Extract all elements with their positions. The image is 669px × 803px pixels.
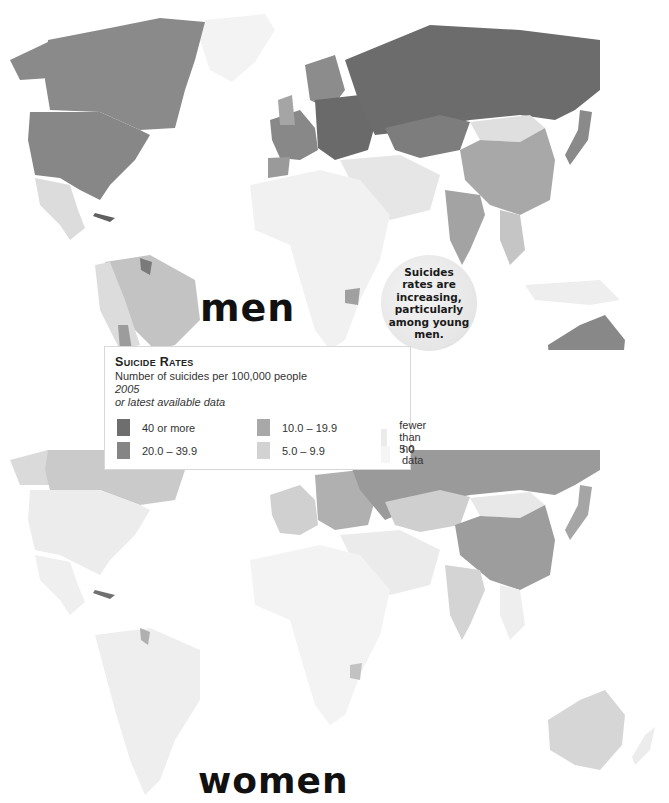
legend-swatch bbox=[257, 419, 270, 436]
region-south-america bbox=[95, 628, 200, 795]
legend-note: or latest available data bbox=[115, 396, 400, 409]
legend-label: 20.0 – 39.9 bbox=[142, 445, 197, 457]
region-greenland bbox=[200, 14, 275, 82]
legend-label: 40 or more bbox=[142, 422, 195, 434]
region-cuba bbox=[93, 590, 115, 599]
legend-swatch bbox=[117, 419, 130, 436]
callout-text: Suicides rates are increasing, particula… bbox=[388, 266, 470, 341]
region-uk bbox=[278, 95, 295, 125]
legend-label: 10.0 – 19.9 bbox=[282, 422, 337, 434]
women-map-label: women bbox=[198, 760, 349, 801]
legend-swatch bbox=[257, 442, 270, 459]
region-cuba bbox=[93, 213, 115, 222]
legend-swatch bbox=[117, 442, 130, 459]
legend: Suicide Rates Number of suicides per 100… bbox=[104, 346, 411, 470]
region-zimbabwe bbox=[350, 663, 362, 680]
region-africa bbox=[250, 545, 390, 725]
region-australia bbox=[548, 315, 625, 350]
legend-item-40-plus: 40 or more bbox=[117, 419, 195, 436]
legend-item-no-data: no data bbox=[381, 442, 427, 466]
region-zimbabwe bbox=[345, 288, 360, 305]
region-japan bbox=[565, 485, 592, 540]
legend-label: no data bbox=[402, 442, 427, 466]
women-map bbox=[0, 450, 669, 803]
men-map bbox=[0, 0, 669, 350]
region-spain bbox=[268, 157, 290, 178]
region-se-asia bbox=[500, 585, 525, 640]
region-western-europe bbox=[270, 485, 318, 535]
region-australia bbox=[548, 690, 625, 770]
legend-swatch bbox=[381, 446, 390, 463]
legend-item-10-19: 10.0 – 19.9 bbox=[257, 419, 337, 436]
region-mexico bbox=[35, 555, 85, 615]
region-india bbox=[445, 190, 485, 265]
region-se-asia bbox=[500, 210, 525, 265]
callout-bubble: Suicides rates are increasing, particula… bbox=[381, 255, 477, 351]
region-new-zealand bbox=[632, 727, 655, 765]
region-india bbox=[445, 565, 485, 640]
legend-items: 40 or more 20.0 – 39.9 10.0 – 19.9 5.0 –… bbox=[115, 419, 400, 459]
region-indonesia bbox=[525, 280, 620, 305]
legend-label: 5.0 – 9.9 bbox=[282, 445, 325, 457]
men-map-label: men bbox=[200, 286, 295, 330]
legend-year: 2005 bbox=[115, 383, 400, 396]
region-japan bbox=[565, 110, 592, 165]
region-russia bbox=[345, 25, 600, 135]
legend-title: Suicide Rates bbox=[115, 355, 400, 369]
legend-item-20-39: 20.0 – 39.9 bbox=[117, 442, 197, 459]
legend-item-5-9: 5.0 – 9.9 bbox=[257, 442, 325, 459]
legend-subtitle: Number of suicides per 100,000 people bbox=[115, 370, 400, 383]
